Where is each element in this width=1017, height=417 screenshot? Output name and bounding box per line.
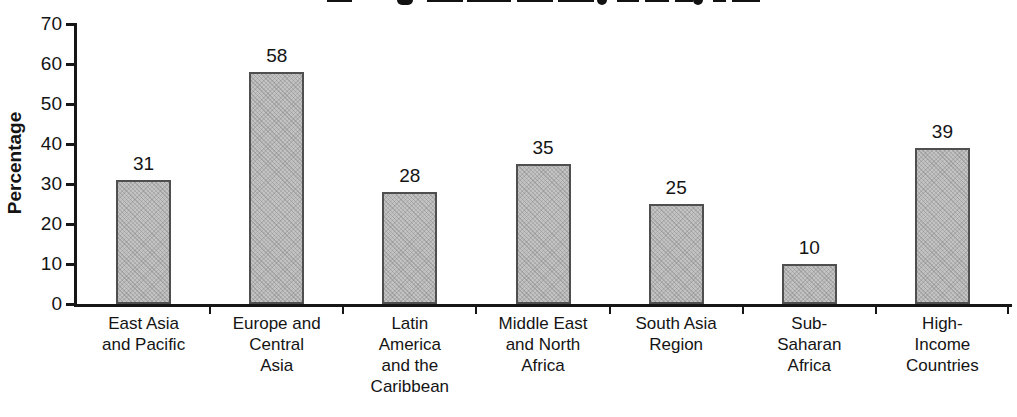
category-label-line: Africa bbox=[477, 355, 610, 376]
category-label: Middle Eastand NorthAfrica bbox=[477, 313, 610, 376]
cropped-title-fragment bbox=[427, 0, 463, 2]
category-label-line: Africa bbox=[743, 355, 876, 376]
bar bbox=[915, 148, 970, 304]
category-label: Europe andCentralAsia bbox=[210, 313, 343, 376]
y-axis-tick bbox=[66, 303, 75, 306]
y-axis-tick-label: 50 bbox=[16, 93, 62, 115]
y-axis-tick-label: 40 bbox=[16, 133, 62, 155]
cropped-title-fragment bbox=[645, 0, 669, 2]
bar bbox=[516, 164, 571, 304]
y-axis-tick bbox=[66, 103, 75, 106]
category-label: High-IncomeCountries bbox=[876, 313, 1009, 376]
bar-value-label: 58 bbox=[247, 45, 307, 67]
category-label-line: Sub- bbox=[743, 313, 876, 334]
category-label-line: Europe and bbox=[210, 313, 343, 334]
bar bbox=[382, 192, 437, 304]
category-label-line: Latin bbox=[343, 313, 476, 334]
bar-value-label: 35 bbox=[513, 137, 573, 159]
category-label-line: Income bbox=[876, 334, 1009, 355]
cropped-title-fragment bbox=[693, 0, 703, 5]
category-label-line: High- bbox=[876, 313, 1009, 334]
bar-value-label: 25 bbox=[646, 177, 706, 199]
y-axis-tick bbox=[66, 183, 75, 186]
y-axis-title: Percentage bbox=[4, 112, 26, 214]
category-label: LatinAmericaand theCaribbean bbox=[343, 313, 476, 397]
cropped-title-fragment bbox=[517, 0, 553, 2]
category-label-line: America bbox=[343, 334, 476, 355]
y-axis-tick bbox=[66, 223, 75, 226]
category-label: South AsiaRegion bbox=[610, 313, 743, 355]
bar bbox=[649, 204, 704, 304]
category-label-line: Central bbox=[210, 334, 343, 355]
category-label-line: South Asia bbox=[610, 313, 743, 334]
bar-chart: Percentage 01020304050607031East Asiaand… bbox=[0, 0, 1017, 417]
category-label-line: and North bbox=[477, 334, 610, 355]
category-label-line: and the bbox=[343, 355, 476, 376]
category-label-line: Region bbox=[610, 334, 743, 355]
cropped-title-fragment bbox=[597, 0, 607, 5]
cropped-title-fragment bbox=[327, 0, 352, 2]
x-axis-tick bbox=[1007, 304, 1009, 314]
bar bbox=[782, 264, 837, 304]
bar-value-label: 28 bbox=[380, 165, 440, 187]
category-label: Sub-SaharanAfrica bbox=[743, 313, 876, 376]
y-axis-tick-label: 60 bbox=[16, 53, 62, 75]
bar-value-label: 31 bbox=[114, 153, 174, 175]
cropped-title-fragment bbox=[617, 0, 639, 2]
x-axis-tick bbox=[742, 304, 744, 314]
x-axis-tick bbox=[209, 304, 211, 314]
x-axis-tick bbox=[875, 304, 877, 314]
cropped-title-fragment bbox=[397, 0, 413, 5]
category-label-line: Middle East bbox=[477, 313, 610, 334]
cropped-title-fragment bbox=[732, 0, 760, 2]
y-axis-tick-label: 20 bbox=[16, 213, 62, 235]
cropped-title-fragment bbox=[713, 0, 726, 2]
bar bbox=[116, 180, 171, 304]
category-label-line: Asia bbox=[210, 355, 343, 376]
x-axis-tick bbox=[475, 304, 477, 314]
x-axis-tick bbox=[342, 304, 344, 314]
category-label-line: East Asia bbox=[77, 313, 210, 334]
y-axis-tick bbox=[66, 263, 75, 266]
cropped-title-fragment bbox=[558, 0, 594, 2]
bar-value-label: 10 bbox=[779, 237, 839, 259]
category-label: East Asiaand Pacific bbox=[77, 313, 210, 355]
y-axis-tick-label: 10 bbox=[16, 253, 62, 275]
y-axis-tick-label: 0 bbox=[16, 293, 62, 315]
y-axis-tick-label: 70 bbox=[16, 13, 62, 35]
category-label-line: Countries bbox=[876, 355, 1009, 376]
x-axis-line bbox=[74, 304, 1012, 307]
bar bbox=[249, 72, 304, 304]
y-axis-tick bbox=[66, 23, 75, 26]
x-axis-tick bbox=[609, 304, 611, 314]
category-label-line: Saharan bbox=[743, 334, 876, 355]
bar-value-label: 39 bbox=[912, 121, 972, 143]
category-label-line: Caribbean bbox=[343, 376, 476, 397]
y-axis-tick bbox=[66, 63, 75, 66]
cropped-title-fragment bbox=[467, 0, 511, 2]
category-label-line: and Pacific bbox=[77, 334, 210, 355]
y-axis-tick-label: 30 bbox=[16, 173, 62, 195]
y-axis-tick bbox=[66, 143, 75, 146]
cropped-title-fragment bbox=[675, 0, 693, 2]
